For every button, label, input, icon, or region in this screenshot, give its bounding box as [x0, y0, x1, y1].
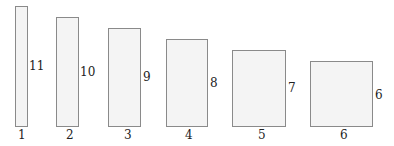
rectangle-4-height-label: 8	[210, 77, 218, 89]
rectangle-1-height-label: 11	[29, 60, 44, 72]
rectangle-3	[108, 28, 141, 127]
rectangle-5-height-label: 7	[288, 82, 296, 94]
rectangle-6-height-label: 6	[375, 89, 383, 101]
rectangle-3-index-label: 3	[124, 129, 132, 141]
rectangle-1-index-label: 1	[18, 129, 26, 141]
rectangle-2-index-label: 2	[66, 129, 74, 141]
rectangle-5-index-label: 5	[258, 129, 266, 141]
rectangle-4-index-label: 4	[185, 129, 193, 141]
rectangle-2	[56, 17, 79, 127]
rectangle-6	[310, 61, 373, 127]
rectangle-4	[166, 39, 208, 127]
rectangle-3-height-label: 9	[143, 71, 151, 83]
rectangle-5	[232, 50, 286, 127]
rectangle-2-height-label: 10	[80, 66, 95, 78]
rectangle-6-index-label: 6	[340, 129, 348, 141]
rectangle-1	[15, 6, 28, 127]
